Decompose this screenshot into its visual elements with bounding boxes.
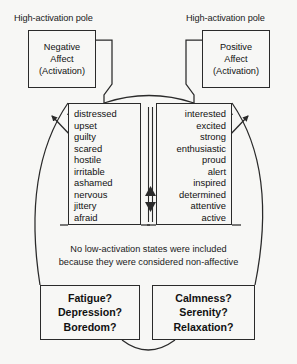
- positive-items-item: alert: [162, 166, 226, 178]
- question-right-line1: Calmness?: [175, 291, 232, 305]
- negative-items-item: distressed: [74, 108, 135, 120]
- negative-affect-item-list: distressedupsetguiltyscaredhostileirrita…: [68, 103, 141, 225]
- negative-items-item: ashamed: [74, 177, 135, 189]
- question-left-line3: Boredom?: [64, 320, 117, 334]
- positive-items-item: proud: [162, 154, 226, 166]
- positive-items-item: determined: [162, 189, 226, 201]
- negative-items-item: afraid: [74, 212, 135, 224]
- positive-affect-line3: (Activation): [213, 65, 259, 77]
- question-left-line2: Depression?: [58, 305, 122, 319]
- connector-positive-bracket: [186, 40, 203, 103]
- low-activation-note-line1: No low-activation states were included: [28, 243, 269, 256]
- negative-items-item: upset: [74, 120, 135, 132]
- positive-items-item: interested: [162, 108, 226, 120]
- pole-label-left: High-activation pole: [14, 13, 93, 24]
- negative-items-item: guilty: [74, 131, 135, 143]
- negative-affect-line1: Negative: [44, 41, 80, 53]
- negative-affect-box: Negative Affect (Activation): [28, 30, 96, 88]
- positive-items-item: inspired: [162, 177, 226, 189]
- centre-double-arrow: [145, 186, 156, 212]
- connector-bottom-arc: [122, 340, 175, 350]
- positive-affect-line2: Affect: [224, 53, 247, 65]
- negative-items-item: scared: [74, 143, 135, 155]
- pole-label-right: High-activation pole: [186, 13, 265, 24]
- negative-items-item: jittery: [74, 200, 135, 212]
- diagram-canvas: High-activation pole High-activation pol…: [0, 0, 297, 364]
- positive-affect-line1: Positive: [220, 41, 252, 53]
- positive-items-item: enthusiastic: [162, 143, 226, 155]
- negative-items-item: hostile: [74, 154, 135, 166]
- positive-affect-box: Positive Affect (Activation): [202, 30, 270, 88]
- question-right-line3: Relaxation?: [173, 320, 233, 334]
- positive-items-item: excited: [162, 120, 226, 132]
- low-activation-note: No low-activation states were included b…: [28, 243, 269, 268]
- positive-items-item: strong: [162, 131, 226, 143]
- low-activation-negative-question-box: Fatigue? Depression? Boredom?: [40, 285, 140, 340]
- question-left-line1: Fatigue?: [68, 291, 112, 305]
- low-activation-positive-question-box: Calmness? Serenity? Relaxation?: [152, 285, 255, 340]
- negative-affect-line2: Affect: [50, 53, 73, 65]
- positive-items-item: attentive: [162, 200, 226, 212]
- positive-items-item: active: [162, 212, 226, 224]
- positive-affect-item-list: interestedexcitedstrongenthusiasticproud…: [156, 103, 232, 225]
- question-right-line2: Serenity?: [179, 305, 227, 319]
- negative-items-item: nervous: [74, 189, 135, 201]
- negative-affect-line3: (Activation): [39, 65, 85, 77]
- low-activation-note-line2: because they were considered non-affecti…: [28, 256, 269, 269]
- connector-top-arc: [104, 96, 194, 104]
- negative-items-item: irritable: [74, 166, 135, 178]
- connector-negative-bracket: [95, 40, 112, 103]
